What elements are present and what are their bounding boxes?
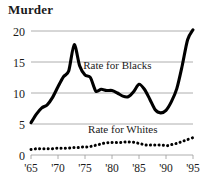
y-axis-tick-labels: 20151050 — [13, 25, 25, 163]
x-axis-tick-label: '75 — [78, 162, 92, 174]
series-line-whites — [31, 138, 193, 150]
y-axis-tick-label: 10 — [13, 87, 25, 101]
tickmarks-group — [31, 155, 193, 159]
x-axis-tick-label: '85 — [132, 162, 146, 174]
x-axis-tick-label: '95 — [186, 162, 200, 174]
series-annotations-group: Rate for BlacksRate for Whites — [83, 59, 157, 134]
x-axis-tick-labels: '65'70'75'80'85'90'95 — [24, 162, 200, 174]
y-axis-tick-label: 20 — [13, 25, 25, 39]
x-axis-tick-label: '90 — [159, 162, 173, 174]
chart-plot-area: 20151050 '65'70'75'80'85'90'95 Rate for … — [0, 0, 200, 179]
murder-rate-chart: Murder 20151050 '65'70'75'80'85'90'95 Ra… — [0, 0, 200, 179]
y-axis-tick-label: 0 — [19, 149, 25, 163]
series-annotation-label: Rate for Blacks — [83, 59, 151, 71]
x-axis-tick-label: '65 — [24, 162, 38, 174]
y-axis-tick-label: 5 — [19, 118, 25, 132]
y-axis-tick-label: 15 — [13, 56, 25, 70]
series-line-blacks — [31, 30, 193, 123]
series-annotation-label: Rate for Whites — [88, 123, 157, 135]
x-axis-tick-label: '80 — [105, 162, 119, 174]
x-axis-tick-label: '70 — [51, 162, 65, 174]
